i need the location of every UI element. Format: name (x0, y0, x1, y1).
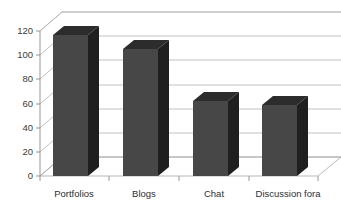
x-category-label-portfolios: Portfolios (54, 188, 94, 199)
y-tick-label-40: 40 (22, 122, 33, 133)
x-category-label-blogs: Blogs (132, 188, 156, 199)
y-tick-label-0: 0 (28, 170, 33, 181)
x-category-label-chat: Chat (204, 188, 224, 199)
bar-chart-figure: 120 100 80 60 40 20 0 (0, 0, 341, 213)
y-tick-label-80: 80 (22, 73, 33, 84)
x-category-label-discussion-fora: Discussion fora (256, 188, 322, 199)
chart-canvas: 120 100 80 60 40 20 0 (0, 0, 341, 213)
y-tick-label-120: 120 (17, 25, 33, 36)
bar-blogs[interactable] (123, 40, 169, 176)
bar-portfolios[interactable] (53, 26, 99, 176)
y-tick-label-100: 100 (17, 49, 33, 60)
y-tick-label-60: 60 (22, 98, 33, 109)
bar-discussion-fora[interactable] (262, 96, 308, 176)
bar-chat[interactable] (193, 92, 239, 176)
y-tick-label-20: 20 (22, 146, 33, 157)
